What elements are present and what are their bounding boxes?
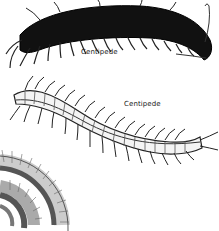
dark-centipede-figure [6,0,212,68]
illustration-canvas: Centipede Centipede [0,0,219,231]
coiled-millipede-figure [0,150,69,231]
centipede-illustration [0,0,219,231]
light-centipede-figure [10,76,218,165]
centipede-label-middle: Centipede [124,100,161,108]
centipede-label-top: Centipede [81,48,118,56]
